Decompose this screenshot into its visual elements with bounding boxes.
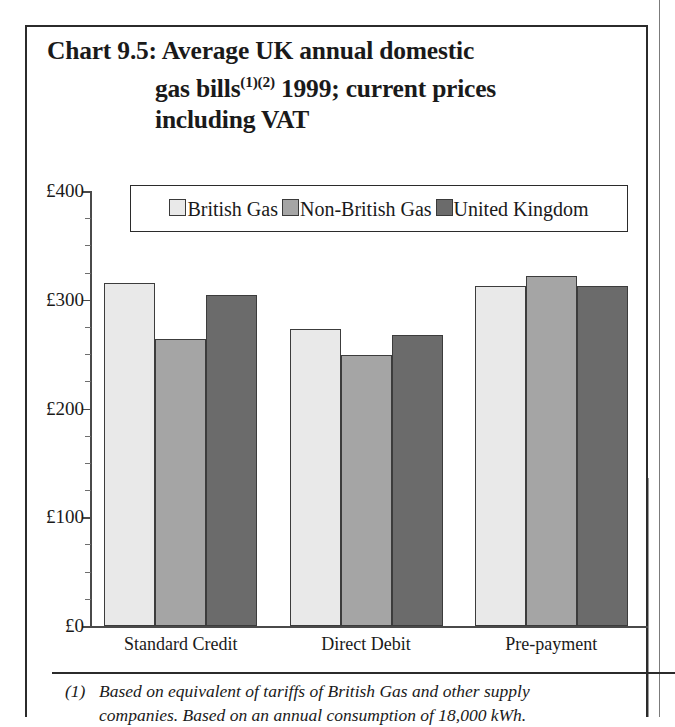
legend-swatch-british-gas [169, 199, 186, 216]
page-edge-rule [659, 0, 660, 717]
y-axis-label-400: £400 [22, 181, 84, 200]
y-axis-label-200: £200 [22, 399, 84, 418]
chart-title-footnote-refs: (1)(2) [240, 73, 274, 90]
legend-swatch-united-kingdom [436, 199, 453, 216]
bar-group-pre-payment [475, 191, 628, 626]
chart-title-line-1: Chart 9.5: Average UK annual domestic [47, 35, 632, 66]
y-axis-tick-minor [85, 572, 91, 573]
y-axis-tick-minor [85, 544, 91, 545]
legend-entry-non-british-gas: Non-British Gas [282, 198, 432, 219]
chart-title-line-3: including VAT [47, 104, 632, 135]
bar-pre-payment-non-british-gas[interactable] [526, 276, 577, 626]
chart-title: Chart 9.5: Average UK annual domestic ga… [47, 35, 632, 135]
legend-swatch-non-british-gas [282, 199, 299, 216]
y-axis-tick-minor [85, 354, 91, 355]
chart-legend: British Gas Non-British Gas United Kingd… [130, 185, 628, 232]
footnote-divider [52, 672, 675, 674]
chart-title-line-2-text: gas bills [155, 74, 240, 103]
y-axis-tick-minor [85, 490, 91, 491]
x-axis-label-direct-debit: Direct Debit [273, 634, 458, 655]
legend-entry-british-gas: British Gas [169, 198, 278, 219]
y-axis-tick-minor [85, 273, 91, 274]
bar-pre-payment-united-kingdom[interactable] [577, 286, 628, 626]
bar-group-standard-credit [104, 191, 257, 626]
legend-entry-united-kingdom: United Kingdom [436, 198, 589, 219]
chart-title-line-2: gas bills(1)(2) 1999; current prices [47, 66, 632, 104]
plot-area: British Gas Non-British Gas United Kingd… [27, 153, 650, 647]
legend-label-united-kingdom: United Kingdom [454, 198, 589, 219]
legend-label-non-british-gas: Non-British Gas [300, 198, 432, 219]
bar-pre-payment-british-gas[interactable] [475, 286, 526, 626]
y-axis-label-0: £0 [22, 616, 84, 635]
legend-label-british-gas: British Gas [187, 198, 278, 219]
y-axis-tick-minor [85, 245, 91, 246]
y-axis-tick-minor [85, 463, 91, 464]
bar-standard-credit-non-british-gas[interactable] [155, 339, 206, 626]
bar-standard-credit-united-kingdom[interactable] [206, 295, 257, 626]
x-axis-line [90, 626, 648, 628]
footnote-line-1: Based on equivalent of tariffs of Britis… [99, 681, 530, 701]
y-axis-tick-minor [85, 218, 91, 219]
chart-title-line-2-tail: 1999; current prices [275, 74, 496, 103]
y-axis-label-100: £100 [22, 507, 84, 526]
bar-direct-debit-non-british-gas[interactable] [341, 355, 392, 626]
y-axis-tick-minor [85, 599, 91, 600]
y-axis-tick-minor [85, 327, 91, 328]
bar-direct-debit-british-gas[interactable] [290, 329, 341, 626]
footnote-marker: (1) [65, 679, 99, 703]
bars-layer [92, 191, 648, 626]
bar-group-direct-debit [290, 191, 443, 626]
footnote-line-2: companies. Based on an annual consumptio… [65, 703, 650, 727]
x-axis-label-pre-payment: Pre-payment [459, 634, 644, 655]
x-axis-label-standard-credit: Standard Credit [88, 634, 273, 655]
y-axis-tick-minor [85, 436, 91, 437]
y-axis-label-300: £300 [22, 290, 84, 309]
bar-direct-debit-united-kingdom[interactable] [392, 335, 443, 626]
y-axis-tick-minor [85, 381, 91, 382]
chart-footnote: (1)Based on equivalent of tariffs of Bri… [65, 679, 650, 727]
bar-standard-credit-british-gas[interactable] [104, 283, 155, 626]
chart-frame: Chart 9.5: Average UK annual domestic ga… [25, 25, 648, 717]
